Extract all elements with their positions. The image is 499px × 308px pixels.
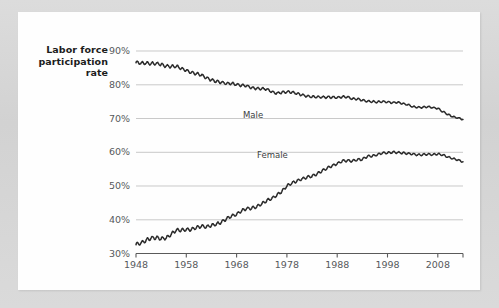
series-line-female [136,151,463,245]
x-tick-label: 1958 [163,259,209,270]
y-tick-label: 40% [96,214,130,225]
screenshot-page: Labor force participation rate 30%40%50%… [0,0,499,308]
y-tick-label: 30% [96,248,130,259]
series-label-male: Male [243,110,263,120]
series-label-female: Female [257,150,288,160]
x-tick-label: 1998 [365,259,411,270]
x-tick-label: 2008 [415,259,461,270]
x-axis-ticks [136,254,463,258]
x-tick-label: 1968 [214,259,260,270]
x-tick-label: 1978 [264,259,310,270]
series-line-male [136,61,463,120]
y-tick-label: 80% [96,79,130,90]
y-tick-label: 90% [96,45,130,56]
y-tick-label: 60% [96,146,130,157]
x-tick-label: 1948 [113,259,159,270]
gridlines [136,51,463,220]
data-series [136,61,463,245]
x-tick-label: 1988 [314,259,360,270]
y-tick-label: 70% [96,113,130,124]
y-tick-label: 50% [96,180,130,191]
